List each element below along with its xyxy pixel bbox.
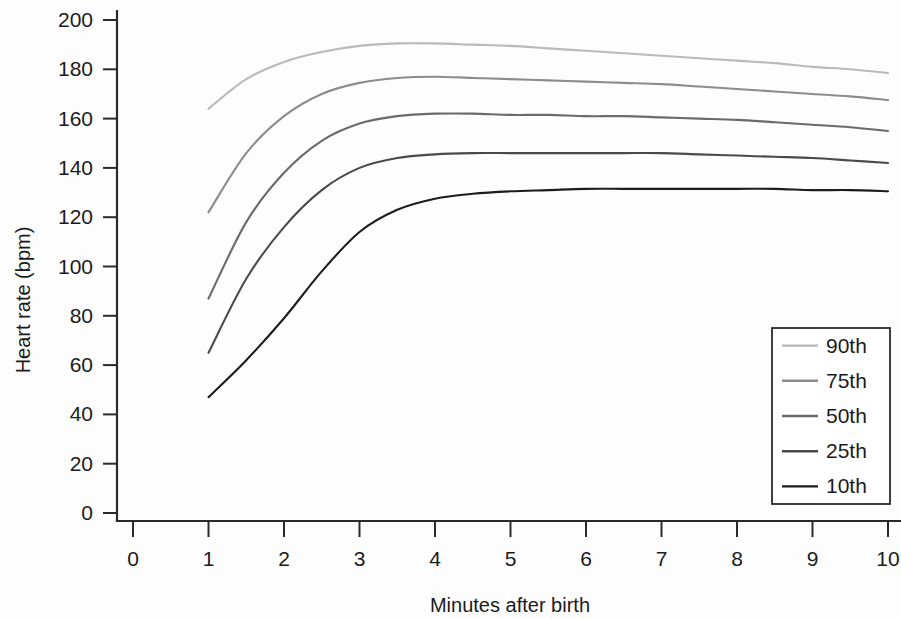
x-axis-tick-labels: 012345678910: [127, 547, 900, 570]
series-line-75th: [209, 77, 889, 213]
y-tick-label: 140: [58, 156, 93, 179]
x-tick-label: 7: [656, 547, 668, 570]
y-tick-label: 160: [58, 107, 93, 130]
y-tick-label: 180: [58, 57, 93, 80]
y-axis-tick-labels: 020406080100120140160180200: [58, 8, 93, 524]
legend-label-90th: 90th: [826, 334, 867, 357]
y-axis-ticks: [103, 20, 117, 513]
x-axis-title: Minutes after birth: [430, 594, 590, 616]
x-axis-ticks: [133, 521, 888, 537]
x-tick-label: 0: [127, 547, 139, 570]
y-tick-label: 100: [58, 255, 93, 278]
series-line-50th: [209, 113, 889, 298]
chart-canvas: 020406080100120140160180200 012345678910…: [0, 0, 901, 619]
y-tick-label: 60: [70, 353, 93, 376]
x-tick-label: 10: [876, 547, 899, 570]
x-tick-label: 4: [429, 547, 441, 570]
x-tick-label: 2: [278, 547, 290, 570]
legend-label-75th: 75th: [826, 369, 867, 392]
y-axis-title: Heart rate (bpm): [12, 227, 34, 374]
y-tick-label: 200: [58, 8, 93, 31]
chart-legend: 90th75th50th25th10th: [772, 328, 890, 504]
x-tick-label: 1: [203, 547, 215, 570]
x-tick-label: 5: [505, 547, 517, 570]
y-tick-label: 80: [70, 304, 93, 327]
legend-label-50th: 50th: [826, 404, 867, 427]
legend-label-10th: 10th: [826, 474, 867, 497]
x-tick-label: 9: [807, 547, 819, 570]
x-tick-label: 3: [354, 547, 366, 570]
y-tick-label: 120: [58, 205, 93, 228]
y-tick-label: 20: [70, 452, 93, 475]
x-tick-label: 8: [731, 547, 743, 570]
heart-rate-percentile-chart: 020406080100120140160180200 012345678910…: [0, 0, 901, 619]
y-tick-label: 40: [70, 402, 93, 425]
y-tick-label: 0: [81, 501, 93, 524]
legend-label-25th: 25th: [826, 439, 867, 462]
x-tick-label: 6: [580, 547, 592, 570]
series-line-25th: [209, 153, 889, 353]
